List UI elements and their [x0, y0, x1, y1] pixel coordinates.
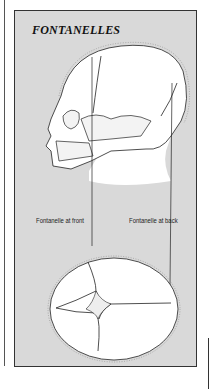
page-margin-line-right [208, 338, 209, 389]
top-skull-outline [50, 258, 178, 360]
skull-illustration [15, 11, 198, 368]
label-front-fontanelle: Fontanelle at front [36, 217, 84, 224]
label-back-fontanelle: Fontanelle at back [129, 217, 178, 224]
figure-panel: FONTANELLES Fontanelle at front Fontanel… [14, 10, 197, 367]
page-margin-line [4, 0, 5, 366]
